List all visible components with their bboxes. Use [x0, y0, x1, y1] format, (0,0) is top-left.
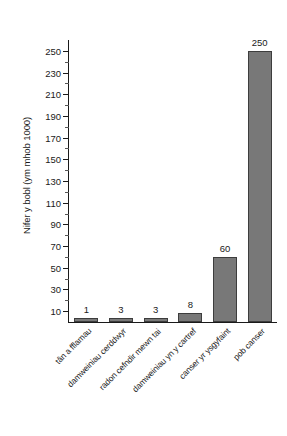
bar-value-label: 250 — [252, 37, 268, 48]
y-tick-label: 30 — [50, 284, 61, 295]
bar-value-label: 8 — [188, 299, 193, 310]
bar — [248, 51, 272, 322]
y-tick-label: 70 — [50, 241, 61, 252]
y-tick-label: 230 — [45, 67, 61, 78]
bar — [144, 318, 168, 322]
x-axis-label: radon cefndir mewn tai — [97, 326, 163, 392]
plot-area: 1030507090110130150170190210230250 13386… — [68, 40, 276, 322]
y-tick-label: 170 — [45, 132, 61, 143]
y-axis-title: Nifer y bobl (ym mhob 1000) — [21, 96, 32, 256]
bar-value-label: 1 — [84, 304, 89, 315]
y-tick-mark — [63, 116, 69, 117]
bar-value-label: 3 — [118, 304, 123, 315]
y-tick-label: 110 — [46, 197, 61, 208]
y-tick-label: 150 — [45, 154, 61, 165]
y-tick-mark — [63, 268, 69, 269]
y-minor-tick — [65, 83, 69, 84]
y-minor-tick — [65, 192, 69, 193]
bar-value-label: 60 — [220, 243, 231, 254]
x-axis-category-labels: tân a fflamaudamweiniau cerddwyrradon ce… — [68, 326, 287, 436]
y-tick-mark — [63, 311, 69, 312]
bar — [213, 257, 237, 322]
y-tick-mark — [63, 138, 69, 139]
x-axis-label: pob canser — [231, 326, 267, 362]
y-tick-mark — [63, 94, 69, 95]
bar-chart: Nifer y bobl (ym mhob 1000) 103050709011… — [0, 0, 287, 436]
y-tick-mark — [63, 246, 69, 247]
y-tick-label: 50 — [50, 262, 61, 273]
bar-group: 3 — [109, 40, 133, 322]
y-tick-mark — [63, 203, 69, 204]
y-minor-tick — [65, 279, 69, 280]
x-axis-label: damweiniau cerddwyr — [65, 326, 128, 389]
y-tick-mark — [63, 289, 69, 290]
y-tick-mark — [63, 73, 69, 74]
bar-group: 3 — [144, 40, 168, 322]
x-axis-label: damweiniau yn y cartref — [130, 326, 198, 394]
y-minor-tick — [65, 214, 69, 215]
bar-group: 60 — [213, 40, 237, 322]
y-tick-mark — [63, 51, 69, 52]
bar-group: 1 — [74, 40, 98, 322]
y-tick-label: 210 — [45, 89, 61, 100]
bar — [74, 318, 98, 322]
y-minor-tick — [65, 105, 69, 106]
y-minor-tick — [65, 235, 69, 236]
y-minor-tick — [65, 62, 69, 63]
y-minor-tick — [65, 170, 69, 171]
y-minor-tick — [65, 257, 69, 258]
y-tick-label: 10 — [50, 306, 61, 317]
y-tick-mark — [63, 159, 69, 160]
y-tick-mark — [63, 181, 69, 182]
bar-group: 8 — [178, 40, 202, 322]
x-axis-line — [68, 322, 277, 323]
bar-group: 250 — [248, 40, 272, 322]
y-tick-label: 130 — [45, 176, 61, 187]
y-minor-tick — [65, 300, 69, 301]
y-tick-mark — [63, 224, 69, 225]
y-tick-label: 90 — [50, 219, 61, 230]
y-minor-tick — [65, 148, 69, 149]
y-tick-label: 190 — [45, 110, 61, 121]
bar-value-label: 3 — [153, 304, 158, 315]
y-tick-label: 250 — [45, 45, 61, 56]
bar — [178, 313, 202, 322]
y-minor-tick — [65, 127, 69, 128]
bar — [109, 318, 133, 322]
